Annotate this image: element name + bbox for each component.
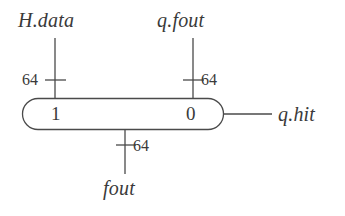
block-diagram-figure: H.data q.fout 64 64 1 0 q.hit 64 fout — [0, 0, 345, 216]
bus-width-label-h-data: 64 — [22, 72, 38, 88]
bus-width-label-fout: 64 — [133, 138, 149, 154]
signal-label-q-hit: q.hit — [278, 104, 315, 124]
bus-width-label-q-fout: 64 — [201, 72, 217, 88]
block-cell-left: 1 — [51, 104, 61, 123]
signal-label-h-data: H.data — [18, 10, 74, 30]
signal-label-q-fout: q.fout — [157, 10, 204, 30]
signal-label-fout: fout — [103, 178, 135, 198]
block-cell-right: 0 — [186, 104, 196, 123]
